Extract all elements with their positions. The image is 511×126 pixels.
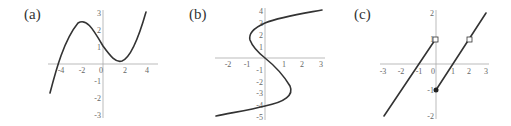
panel-a-xtick: -2 [79, 66, 86, 75]
panel-c-open-marker-left-end [433, 37, 438, 42]
panel-c-ytick: 2 [430, 9, 434, 18]
panel-a-xtick: 0 [99, 66, 103, 75]
panel-a-xtick: 4 [145, 66, 149, 75]
panel-a-ytick: -2 [94, 94, 101, 103]
panel-b-xtick: 1 [282, 60, 286, 69]
panel-a-ytick: 1 [97, 43, 101, 52]
panel-b-xtick: -1 [244, 60, 251, 69]
panel-b-label: (b) [189, 6, 207, 23]
panel-c-xtick: 3 [484, 67, 488, 76]
panel-b-ytick: -1 [256, 66, 263, 75]
panel-a-xtick: -4 [58, 66, 65, 75]
panel-b-ytick: -5 [256, 113, 263, 122]
figure: (a) -4 -2 0 2 4 3 2 1 -1 -2 -3 (b) -2 -1… [0, 0, 511, 126]
panel-a-label: (a) [24, 6, 41, 23]
panel-b: (b) -2 -1 1 2 3 4 3 2 1 -1 -2 -3 -4 -5 [189, 6, 325, 122]
panel-b-ytick: -2 [256, 78, 263, 87]
panel-b-curve [216, 10, 322, 116]
panel-c-xtick: -2 [398, 67, 405, 76]
panel-a-ytick: -3 [94, 111, 101, 120]
panel-c-ytick: -1 [427, 86, 434, 95]
panel-c-open-marker-right [467, 37, 472, 42]
panel-b-ytick: 2 [259, 31, 263, 40]
panel-c-xtick: 2 [467, 67, 471, 76]
panel-a-ytick: -1 [94, 77, 101, 86]
panel-b-xtick: 2 [300, 60, 304, 69]
panel-c: (c) -3 -2 -1 0 1 2 3 2 1 -1 -2 [354, 6, 489, 121]
panel-a: (a) -4 -2 0 2 4 3 2 1 -1 -2 -3 [24, 6, 158, 120]
panel-c-right-segment [436, 13, 486, 90]
panel-c-left-segment [384, 40, 435, 116]
panel-b-xtick: -2 [225, 60, 232, 69]
panel-c-xtick: -3 [380, 67, 387, 76]
panel-c-filled-dot [434, 88, 439, 93]
panel-c-label: (c) [354, 6, 371, 23]
panel-a-xtick: 2 [123, 66, 127, 75]
panel-b-xtick: 3 [319, 60, 323, 69]
panel-b-ytick: -3 [256, 89, 263, 98]
panel-c-xtick: 1 [451, 67, 455, 76]
panel-b-ytick: 1 [259, 43, 263, 52]
panel-a-ytick: 3 [97, 9, 101, 18]
panel-a-ytick: 2 [97, 26, 101, 35]
panel-c-ytick: -2 [427, 112, 434, 121]
panel-b-ytick: 4 [259, 7, 263, 16]
panel-c-xtick: 0 [431, 67, 435, 76]
